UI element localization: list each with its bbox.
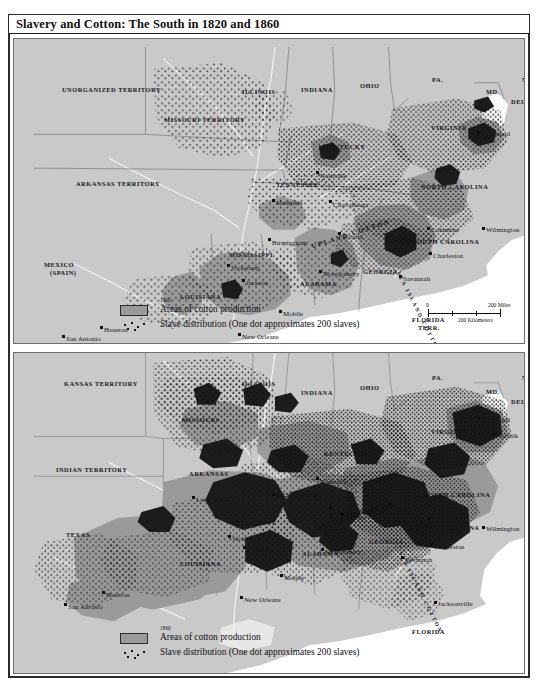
state-label: VIRGINIA <box>431 429 466 436</box>
state-label: SOUTH CAROLINA <box>413 239 479 246</box>
city-label: New Orleans <box>242 333 279 340</box>
state-label: ALABAMA <box>300 281 337 288</box>
state-label: ILLINOIS <box>242 89 276 96</box>
map-panel-1820: UNORGANIZED TERRITORYMISSOURI TERRITORYA… <box>13 38 525 344</box>
state-label: SOUTH CAROLINA <box>413 525 479 532</box>
state-label: MD. <box>486 89 500 96</box>
city-marker-dot <box>430 543 433 546</box>
city-marker-dot <box>102 591 105 594</box>
legend-year-1820: 1820 <box>160 297 171 303</box>
city-label: San Antonio <box>68 603 103 610</box>
state-label: GEORGIA <box>369 539 404 546</box>
state-label: DEL. <box>511 99 525 106</box>
state-label: MISSOURI <box>182 417 219 424</box>
geography-layer-1860 <box>14 353 524 673</box>
city-marker-dot <box>272 493 275 496</box>
city-marker-dot <box>228 535 231 538</box>
city-label: Montgomery <box>323 270 359 277</box>
state-label: ARKANSAS <box>189 471 229 478</box>
state-label: TEXAS <box>66 532 90 539</box>
city-label: Vicksburg <box>231 264 260 271</box>
map-plate-page: Slavery and Cotton: The South in 1820 an… <box>0 0 539 690</box>
city-marker-dot <box>64 603 67 606</box>
state-label: INDIANA <box>301 390 333 397</box>
state-label: N.J. <box>522 375 525 382</box>
scale-miles-zero: 0 <box>426 302 429 308</box>
city-label: New Orleans <box>244 596 281 603</box>
state-label: MISSISSIPPI <box>231 520 275 527</box>
city-marker-dot <box>427 227 430 230</box>
state-label: DEL. <box>511 399 525 406</box>
map-panel-1860: KANSAS TERRITORYINDIAN TERRITORYFLORIDA … <box>13 352 525 674</box>
city-marker-dot <box>316 171 319 174</box>
city-label: Mobile <box>283 310 303 317</box>
city-label: Wilmington <box>486 525 520 532</box>
city-label: Little Rock <box>196 496 228 503</box>
territory-label: INDIAN TERRITORY <box>56 467 127 474</box>
territory-label: KANSAS TERRITORY <box>64 381 138 388</box>
state-label: LOUISIANA <box>180 561 221 568</box>
city-label: Charleston <box>433 252 463 259</box>
city-marker-dot <box>280 574 283 577</box>
state-label: OHIO <box>360 385 380 392</box>
legend-slave-dots <box>122 322 150 331</box>
city-marker-dot <box>492 433 495 436</box>
city-marker-dot <box>242 279 245 282</box>
state-label: MISSISSIPPI <box>229 252 273 259</box>
page-title: Slavery and Cotton: The South in 1820 an… <box>16 17 279 32</box>
state-label: ILLINOIS <box>242 381 276 388</box>
state-label: NORTH CAROLINA <box>423 492 490 499</box>
city-label: San Antonio <box>66 335 101 342</box>
city-marker-dot <box>319 270 322 273</box>
city-label: Vicksburg <box>232 535 261 542</box>
city-marker-dot <box>316 477 319 480</box>
territory-label: (Spain) <box>50 270 76 277</box>
atlantic-ocean-1820 <box>486 236 524 296</box>
territory-label: MISSOURI TERRITORY <box>164 117 245 124</box>
city-label: Nashville <box>320 478 347 485</box>
city-label: Jackson <box>247 546 269 553</box>
scale-miles-label: 200 Miles <box>488 302 511 308</box>
city-label: Richmond <box>481 130 510 137</box>
legend-cotton-label: Areas of cotton production <box>160 632 261 642</box>
slave-distribution-dots-1860 <box>34 357 512 621</box>
state-label: TENNESSEE <box>276 182 319 189</box>
scale-km-zero: 0 <box>426 317 429 323</box>
state-label: KENTUCKY <box>324 451 365 458</box>
scale-km-label: 200 Kilometers <box>458 317 493 323</box>
city-label: Richmond <box>481 416 510 423</box>
city-marker-dot <box>100 326 103 329</box>
legend-cotton-swatch <box>120 633 148 644</box>
city-marker-dot <box>279 310 282 313</box>
city-marker-dot <box>62 335 65 338</box>
city-label: Mobile <box>284 574 304 581</box>
city-label: Norfolk <box>496 432 518 439</box>
city-label: Wilmington <box>486 226 520 233</box>
state-label: LOUISIANA <box>180 294 221 301</box>
city-label: Charleston <box>434 543 464 550</box>
legend-slave-label: Slave distribution (One dot approximates… <box>160 319 359 329</box>
city-label: Birmingham <box>272 239 307 246</box>
city-marker-dot <box>227 264 230 267</box>
state-label: PA. <box>432 375 443 382</box>
city-label: Houston <box>106 591 130 598</box>
city-marker-dot <box>434 601 437 604</box>
city-marker-dot <box>477 417 480 420</box>
city-marker-dot <box>329 200 332 203</box>
state-label: N.J. <box>522 77 525 84</box>
slave-distribution-dots-1820 <box>124 63 508 329</box>
legend-slave-dots <box>122 650 150 659</box>
city-label: Columbia <box>432 516 460 523</box>
territory-label: MEXICO <box>44 262 74 269</box>
city-marker-dot <box>243 546 246 549</box>
state-label: OHIO <box>360 83 380 90</box>
city-marker-dot <box>428 517 431 520</box>
city-label: Jacksonville <box>438 600 473 607</box>
legend-cotton-swatch <box>120 305 148 316</box>
city-label: Chattanooga <box>333 201 368 208</box>
territory-label: ARKANSAS TERRITORY <box>76 181 160 188</box>
city-marker-dot <box>238 333 241 336</box>
state-label: MD. <box>486 389 500 396</box>
city-marker-dot <box>240 596 243 599</box>
state-label: NORTH CAROLINA <box>421 184 488 191</box>
